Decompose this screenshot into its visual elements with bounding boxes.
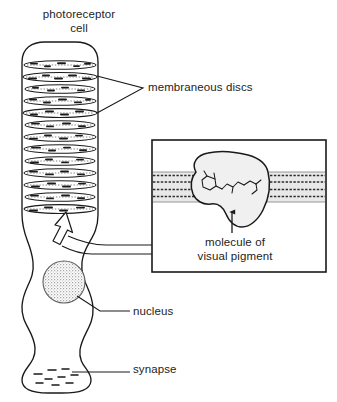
label-synapse: synapse [133, 363, 177, 377]
disc [25, 85, 95, 93]
label-membraneous-discs: membraneous discs [148, 81, 253, 95]
disc [25, 121, 95, 129]
page-title: photoreceptor cell [24, 8, 134, 35]
cell-outline [22, 42, 98, 393]
disc [25, 157, 95, 165]
disc [24, 133, 96, 142]
disc [24, 181, 96, 190]
disc [24, 169, 96, 178]
disc [23, 109, 97, 118]
disc [23, 73, 97, 82]
label-nucleus: nucleus [133, 305, 173, 319]
label-molecule-of-visual-pigment: molecule of visual pigment [180, 236, 290, 263]
disc [24, 97, 96, 106]
disc [24, 205, 96, 214]
disc [24, 145, 96, 154]
diagram-canvas [0, 0, 337, 402]
disc [25, 193, 95, 201]
disc [24, 61, 96, 70]
discs-bracket-connector [97, 76, 143, 113]
photoreceptor-diagram: photoreceptor cell membraneous discs mol… [0, 0, 337, 402]
